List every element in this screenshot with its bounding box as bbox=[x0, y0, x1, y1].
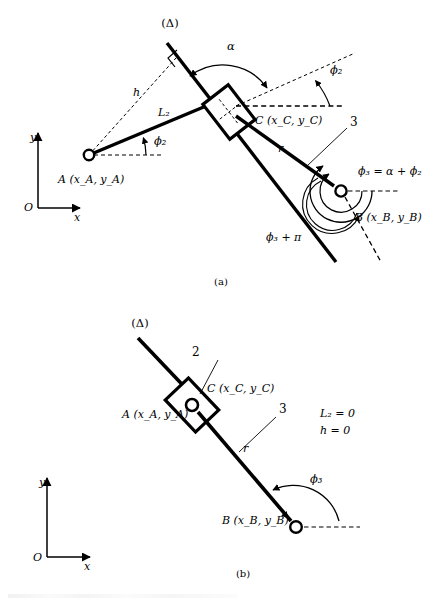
label-point-C-b: C (x_C, y_C) bbox=[207, 382, 274, 395]
label-phi3-b: ϕ₃ bbox=[310, 472, 323, 486]
delta-line-a bbox=[167, 43, 336, 262]
label-phi2-at-A-a: ϕ₂ bbox=[154, 134, 167, 148]
label-alpha-a: α bbox=[227, 39, 235, 53]
label-delta-a: (Δ) bbox=[161, 16, 178, 30]
label-origin-b: O bbox=[33, 551, 42, 564]
label-point-C-a: C (x_C, y_C) bbox=[255, 114, 322, 127]
pivot-B-a bbox=[335, 185, 346, 196]
mechanism-diagram: (Δ) y O x h L₂ α ϕ₂ ϕ₂ C (x_C, y_C) A (x… bbox=[0, 0, 442, 599]
label-link3-a: 3 bbox=[350, 115, 358, 129]
label-y-axis-a: y bbox=[29, 131, 37, 144]
label-condition-L2-b: L₂ = 0 bbox=[319, 407, 355, 420]
label-phi2-at-C-a: ϕ₂ bbox=[330, 63, 343, 77]
label-origin-a: O bbox=[24, 201, 33, 214]
delta-link-a bbox=[167, 43, 336, 262]
label-point-A-b: A (x_A, y_A) bbox=[121, 408, 188, 421]
label-link3-b: 3 bbox=[279, 402, 287, 416]
label-r-b: r bbox=[243, 442, 249, 455]
label-h-a: h bbox=[133, 86, 140, 99]
label-x-axis-b: x bbox=[84, 560, 91, 573]
axes-panel-a bbox=[38, 133, 80, 208]
caption-panel-a: (a) bbox=[214, 276, 228, 287]
angle-arc-phi2-C-a bbox=[316, 81, 331, 107]
label-L2-a: L₂ bbox=[157, 106, 170, 119]
label-slider2-b: 2 bbox=[192, 345, 200, 359]
slider-block-a bbox=[203, 85, 255, 139]
angle-arc-phi2-A-a bbox=[143, 138, 146, 155]
label-point-B-b: B (x_B, y_B) bbox=[221, 514, 289, 527]
label-condition-h-b: h = 0 bbox=[320, 424, 350, 437]
label-y-axis-b: y bbox=[38, 476, 46, 489]
label-r-a: r bbox=[278, 142, 284, 155]
label-point-A-a: A (x_A, y_A) bbox=[57, 173, 124, 186]
label-x-axis-a: x bbox=[74, 211, 81, 224]
label-phi3-plus-pi-a: ϕ₃ + π bbox=[266, 231, 302, 244]
pivot-B-b bbox=[290, 521, 302, 533]
label-delta-b: (Δ) bbox=[131, 316, 148, 330]
label-point-B-a: B (x_B, y_B) bbox=[354, 211, 422, 224]
pivot-A-a bbox=[84, 150, 94, 160]
leader-link3-a bbox=[307, 128, 347, 166]
axes-panel-b bbox=[47, 478, 90, 557]
label-phi3-relation-a: ϕ₃ = α + ϕ₂ bbox=[358, 165, 422, 178]
figure-root: (Δ) y O x h L₂ α ϕ₂ ϕ₂ C (x_C, y_C) A (x… bbox=[0, 0, 442, 599]
r-extension-dashed-a bbox=[345, 197, 381, 262]
caption-panel-b: (b) bbox=[236, 568, 250, 579]
phi2-reference-ray-C-a bbox=[236, 53, 355, 106]
